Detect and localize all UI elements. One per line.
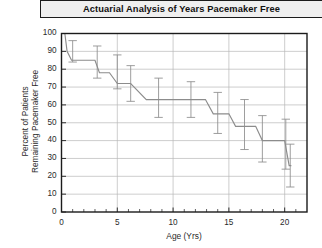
x-tick-label: 5 xyxy=(105,218,129,227)
y-tick-label: 80 xyxy=(33,64,57,73)
y-tick-label: 50 xyxy=(33,118,57,127)
y-tick-label: 100 xyxy=(33,28,57,37)
y-tick-label: 60 xyxy=(33,100,57,109)
x-tick-label: 20 xyxy=(273,218,297,227)
y-tick-label: 70 xyxy=(33,82,57,91)
x-tick-label: 10 xyxy=(161,218,185,227)
y-tick-label: 10 xyxy=(33,189,57,198)
x-tick-label: 15 xyxy=(217,218,241,227)
y-tick-label: 90 xyxy=(33,46,57,55)
y-tick-label: 40 xyxy=(33,135,57,144)
actuarial-analysis-figure: Actuarial Analysis of Years Pacemaker Fr… xyxy=(0,0,322,248)
x-tick-label: 0 xyxy=(50,218,74,227)
y-tick-label: 20 xyxy=(33,171,57,180)
y-tick-label: 0 xyxy=(33,207,57,216)
plot-area: 010203040506070809010005101520 xyxy=(0,0,322,248)
y-tick-label: 30 xyxy=(33,153,57,162)
